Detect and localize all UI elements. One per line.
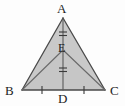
vertex-label-c: C [110,84,119,97]
geometry-figure: A B C D E [0,0,125,106]
vertex-label-b: B [5,84,14,97]
vertex-label-e: E [58,42,65,54]
vertex-label-d: D [58,92,67,105]
vertex-label-a: A [57,2,66,15]
